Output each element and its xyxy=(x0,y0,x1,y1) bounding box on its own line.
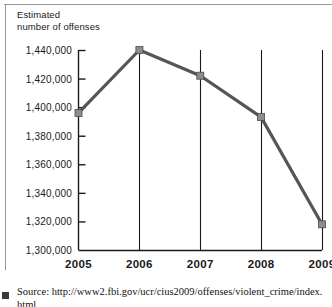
x-axis-tick-label: 2008 xyxy=(231,258,291,270)
x-axis-tick-label: 2006 xyxy=(109,258,169,270)
data-point-2007 xyxy=(197,72,204,79)
y-axis-tick-label: 1,440,000 xyxy=(0,45,72,56)
data-point-2009 xyxy=(319,221,326,228)
chart-gridlines xyxy=(140,50,323,250)
data-point-2006 xyxy=(136,47,143,54)
y-axis-tick-label: 1,420,000 xyxy=(0,73,72,84)
x-axis-tick-label: 2007 xyxy=(170,258,230,270)
y-axis-tick-label: 1,380,000 xyxy=(0,130,72,141)
y-axis-tick-label: 1,360,000 xyxy=(0,159,72,170)
source-caption: Source: http://www2.fbi.gov/ucr/cius2009… xyxy=(17,286,327,307)
y-axis-tick-label: 1,320,000 xyxy=(0,216,72,227)
y-axis-tick-label: 1,340,000 xyxy=(0,187,72,198)
y-axis-tick-label: 1,400,000 xyxy=(0,102,72,113)
x-axis-tick-label: 2005 xyxy=(49,258,109,270)
x-axis-tick-label: 2009 xyxy=(292,258,332,270)
data-point-2008 xyxy=(258,114,265,121)
y-axis-tick-label: 1,300,000 xyxy=(0,245,72,256)
line-chart: 1,300,0001,320,0001,340,0001,360,0001,38… xyxy=(0,0,332,307)
y-axis-ticks xyxy=(79,51,86,222)
data-point-2005 xyxy=(75,109,82,116)
